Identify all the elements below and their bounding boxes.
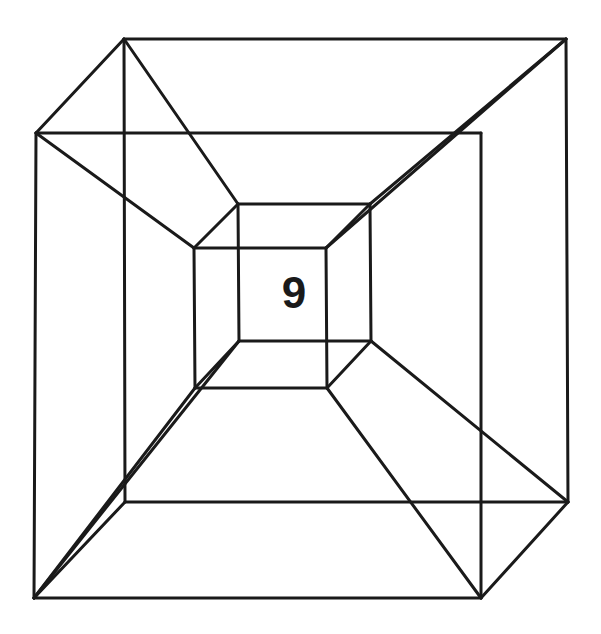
- edge-outer_front_bl-outer_back_bl: [34, 502, 125, 598]
- edge-inner_front_bl-inner_back_bl: [195, 341, 239, 388]
- edge-outer_back_br-inner_back_br: [371, 341, 568, 502]
- cube-number-label: 9: [254, 268, 334, 318]
- edge-outer_front_bl-inner_front_bl: [34, 388, 195, 598]
- edge-outer_back_tr-outer_back_br: [566, 39, 568, 502]
- edge-inner_back_bl-inner_back_tl: [238, 204, 239, 341]
- edge-outer_back_tr-inner_front_tr: [326, 39, 566, 248]
- edge-outer_front_bl-outer_front_tl: [34, 133, 36, 598]
- edge-outer_front_tl-outer_back_tl: [36, 39, 124, 133]
- edge-inner_front_tr-inner_back_tr: [326, 204, 370, 248]
- edge-outer_front_br-outer_back_br: [481, 502, 568, 598]
- edge-outer_back_bl-outer_back_tl: [124, 39, 125, 502]
- edge-inner_front_bl-inner_front_tl: [194, 248, 195, 388]
- edge-outer_back_tl-inner_back_tl: [124, 39, 238, 204]
- edge-outer_front_tl-inner_front_tl: [36, 133, 194, 248]
- edge-inner_front_br-inner_back_br: [327, 341, 371, 388]
- edge-outer_front_br-inner_front_br: [327, 388, 481, 598]
- edge-inner_front_tl-inner_back_tl: [194, 204, 238, 248]
- edge-inner_back_tr-inner_back_br: [370, 204, 371, 341]
